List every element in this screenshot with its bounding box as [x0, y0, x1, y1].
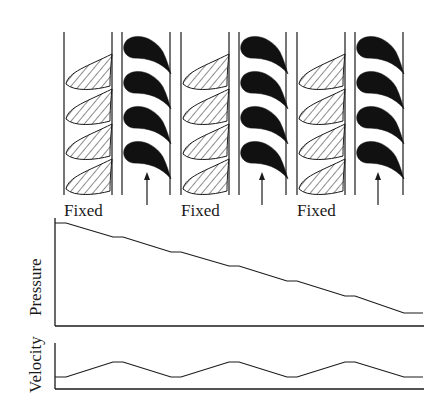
velocity-graph: [55, 343, 424, 389]
fixed-label-1: Fixed: [64, 201, 103, 221]
fixed-label-2: Fixed: [181, 201, 220, 221]
moving-row-2: [239, 32, 288, 195]
moving-row-1: [122, 32, 171, 195]
velocity-curve: [55, 362, 423, 377]
fixed-row-2: [181, 32, 229, 195]
fixed-row-1: [64, 32, 112, 195]
fixed-label-3: Fixed: [297, 201, 336, 221]
pressure-graph: [55, 218, 424, 326]
pressure-curve: [55, 223, 423, 313]
flow-arrow-2: [259, 172, 265, 205]
flow-arrow-3: [375, 172, 381, 205]
moving-row-3: [355, 32, 404, 195]
velocity-axis-label: Velocity: [26, 336, 46, 393]
fixed-row-3: [297, 32, 345, 195]
pressure-axis-label: Pressure: [26, 258, 46, 316]
flow-arrow-1: [144, 172, 150, 205]
